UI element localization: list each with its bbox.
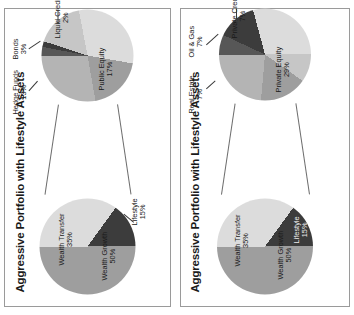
slice-label-value: 35%: [64, 232, 73, 247]
chart-panel-right: Aggressive Portfolio with Lifestyle Asse…: [180, 8, 350, 307]
callout-label-value: 7%: [238, 10, 247, 21]
slice-label-lifestyle-right: Lifestyle 15%: [293, 216, 310, 243]
slice-label-value: 15%: [300, 222, 309, 237]
panel-right-canvas: Aggressive Portfolio with Lifestyle Asse…: [181, 9, 349, 306]
callout-label-text: Hedge Funds: [10, 70, 19, 114]
slice-label-private-equity-right: Private Equity 29%: [275, 46, 292, 92]
goals-pie-left: [39, 198, 135, 294]
leader-line-oil-gas: [206, 33, 219, 44]
callout-label-text: Liquid Credit: [52, 0, 61, 38]
callout-label-hedge-funds: Hedge Funds 13%: [11, 70, 28, 114]
callout-label-liquid-credit: Liquid Credit 2%: [53, 0, 70, 38]
callout-label-value: 15%: [137, 204, 146, 219]
slice-label-value: 17%: [104, 61, 113, 76]
slice-label-wealth-growth-left: Wealth Growth 50%: [100, 231, 117, 280]
slice-label-text: Wealth Growth: [99, 231, 108, 280]
callout-label-value: 7%: [195, 36, 204, 47]
leader-line-bonds: [28, 40, 40, 49]
callout-label-value: 3%: [18, 43, 27, 54]
slice-label-public-equity-left: Public Equity 17%: [97, 47, 114, 90]
chart-panel-left: Aggressive Portfolio with Lifestyle Asse…: [4, 8, 171, 307]
callout-label-value: 7%: [195, 89, 204, 100]
slice-label-wealth-transfer-left: Wealth Transfer 35%: [57, 213, 74, 265]
slice-label-value: 35%: [241, 233, 250, 248]
leader-line-liquid-credit: [57, 9, 58, 23]
callout-label-private-credit: Private Credit 7%: [231, 0, 248, 38]
callout-label-value: 2%: [60, 12, 69, 23]
slice-label-value: 50%: [107, 248, 116, 263]
screenshot-root: Aggressive Portfolio with Lifestyle Asse…: [0, 0, 354, 315]
connector-line-bottom: [117, 104, 131, 194]
slice-label-value: 29%: [282, 62, 291, 77]
connector-line-bottom: [295, 103, 310, 194]
leader-line-hedge-funds: [28, 80, 37, 90]
slice-label-text: Wealth Transfer: [56, 213, 65, 265]
leader-line-real-estate: [206, 80, 216, 89]
leader-line-private-credit: [236, 8, 237, 22]
callout-label-text: Bonds: [10, 38, 19, 59]
connector-line-top: [221, 103, 236, 194]
slice-label-wealth-transfer-right: Wealth Transfer 35%: [234, 214, 251, 266]
slice-label-text: Public Equity: [96, 47, 105, 90]
callout-label-real-estate: Real Estate 7%: [188, 75, 205, 113]
callout-label-bonds: Bonds 3%: [11, 38, 28, 59]
panel-left-canvas: Aggressive Portfolio with Lifestyle Asse…: [5, 9, 170, 306]
callout-label-oil-gas: Oil & Gas 7%: [188, 25, 205, 57]
callout-label-value: 13%: [18, 84, 27, 99]
slice-label-value: 50%: [284, 247, 293, 262]
goals-pie-right: [217, 198, 313, 294]
connector-line-top: [44, 104, 58, 194]
